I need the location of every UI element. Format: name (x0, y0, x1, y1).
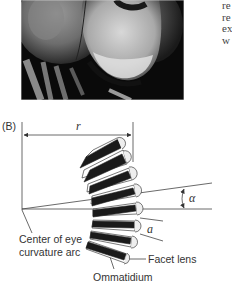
facet-diameter-label: a (147, 223, 153, 235)
center-label-line2: curvature arc (19, 246, 80, 258)
ommatidium-label: Ommatidium (93, 271, 153, 283)
center-label-line1: Center of eye (19, 233, 82, 245)
ommatidia-array (80, 137, 143, 264)
angle-label: α (189, 192, 195, 204)
facet-width-line-top (140, 218, 163, 221)
radius-label: r (76, 120, 81, 132)
panel-label: (B) (2, 120, 16, 132)
center-leader-line (22, 210, 32, 233)
alpha-arc (182, 189, 184, 208)
facet-lens-label: Facet lens (148, 253, 196, 265)
